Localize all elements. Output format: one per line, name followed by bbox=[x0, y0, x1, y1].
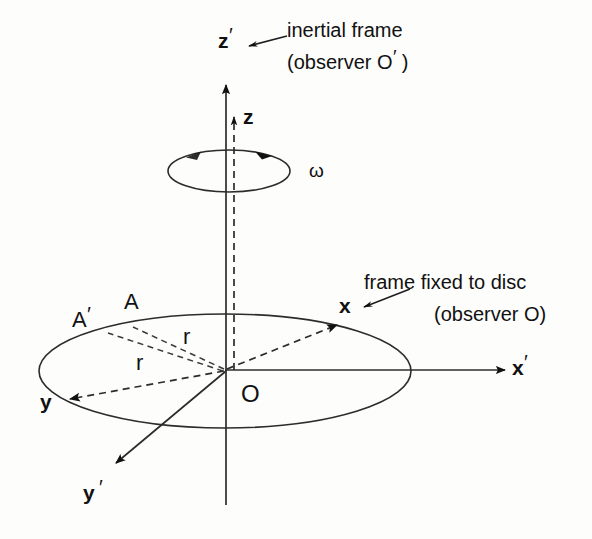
rotation-circle bbox=[168, 150, 290, 192]
origin-label: O bbox=[241, 381, 260, 406]
y-axis-dashed-line bbox=[70, 371, 224, 399]
point-a-label: A bbox=[124, 290, 139, 313]
z-prime-axis-label: z′ bbox=[218, 30, 232, 52]
y-axis-label: y bbox=[40, 391, 52, 413]
figure-canvas: z′ z ω x′ x y y′ O A A′ r r inertial fra… bbox=[0, 0, 592, 539]
diagram-vector-layer bbox=[0, 0, 592, 539]
prime-mark-z: ′ bbox=[229, 24, 233, 46]
prime-mark-y: ′ bbox=[99, 476, 103, 498]
radius-label-lower: r bbox=[136, 351, 143, 374]
omega-label: ω bbox=[309, 161, 324, 181]
radius-label-upper: r bbox=[183, 325, 190, 348]
prime-mark-x: ′ bbox=[524, 351, 528, 373]
inertial-frame-caption-line2: (observer O′ ) bbox=[287, 52, 408, 73]
prime-mark-a: ′ bbox=[87, 302, 91, 325]
inertial-frame-caption-line1: inertial frame bbox=[287, 20, 403, 41]
prime-mark-observer: ′ bbox=[393, 46, 397, 67]
inertial-frame-leader-arrow bbox=[249, 36, 287, 46]
radius-to-a-line bbox=[133, 327, 224, 369]
radius-to-a-prime-line bbox=[108, 333, 223, 371]
disc-frame-caption-line2: (observer O) bbox=[434, 304, 546, 325]
y-prime-axis-line bbox=[116, 371, 226, 463]
z-axis-label: z bbox=[243, 106, 254, 128]
point-a-prime-label: A′ bbox=[72, 308, 91, 331]
y-prime-axis-label: y′ bbox=[83, 482, 98, 504]
disc-frame-caption-line1: frame fixed to disc bbox=[364, 272, 526, 293]
rotation-arrowhead-right bbox=[255, 152, 272, 160]
x-prime-axis-label: x′ bbox=[512, 357, 527, 379]
x-axis-label: x bbox=[339, 295, 351, 317]
x-axis-dashed-line bbox=[227, 325, 337, 369]
